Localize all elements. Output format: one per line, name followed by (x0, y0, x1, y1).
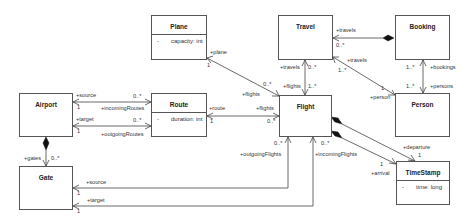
role-label: +departure (403, 145, 430, 151)
role-label: +outgoingRoutes (101, 132, 143, 138)
class-attribute: -duration: int (152, 113, 206, 122)
role-label: +source (76, 93, 96, 99)
class-flight[interactable]: Flight (279, 95, 332, 137)
role-label: +flights (256, 106, 274, 112)
role-label: +target (76, 117, 94, 123)
class-name: Flight (280, 96, 331, 114)
class-name: Travel (279, 16, 332, 34)
role-label: +flights (283, 84, 301, 90)
multiplicity-label: 1..* (406, 65, 414, 71)
multiplicity-label: 1 (77, 191, 80, 197)
multiplicity-label: 0..* (51, 156, 59, 162)
class-timestamp[interactable]: TimeStamp -time: long (396, 161, 450, 205)
class-name: Gate (20, 167, 72, 185)
role-label: +plane (210, 50, 227, 56)
role-label: +flights (242, 92, 260, 98)
multiplicity-label: 0..* (308, 65, 316, 71)
class-name: Route (152, 94, 206, 113)
multiplicity-label: 0..* (133, 94, 141, 100)
role-label: +travels (347, 58, 367, 64)
role-label: +arrival (371, 171, 390, 177)
multiplicity-label: 1..* (406, 84, 414, 90)
class-attribute: -capacity: int (152, 35, 206, 44)
role-label: +persons (430, 84, 453, 90)
class-travel[interactable]: Travel (278, 15, 333, 60)
class-person[interactable]: Person (395, 93, 450, 137)
class-booking[interactable]: Booking (395, 15, 450, 60)
multiplicity-label: 0..* (263, 82, 271, 88)
multiplicity-label: 0..* (321, 141, 329, 147)
role-label: +target (87, 198, 105, 204)
class-gate[interactable]: Gate (19, 166, 73, 210)
class-name: Plane (152, 16, 206, 35)
class-attribute: -time: long (397, 181, 449, 190)
role-label: +incomingFlights (315, 152, 357, 158)
role-label: +incomingRoutes (101, 106, 144, 112)
multiplicity-label: 1 (77, 105, 80, 111)
role-label: +source (86, 180, 106, 186)
class-plane[interactable]: Plane -capacity: int (151, 15, 207, 60)
multiplicity-label: 1..* (308, 84, 316, 90)
multiplicity-label: 1 (418, 153, 421, 159)
multiplicity-label: 1 (210, 119, 213, 125)
class-name: Person (396, 94, 449, 112)
class-route[interactable]: Route -duration: int (151, 93, 207, 137)
multiplicity-label: 0..* (336, 43, 344, 49)
role-label: +travels (336, 28, 356, 34)
role-label: +travels (280, 65, 300, 71)
multiplicity-label: 1 (77, 129, 80, 135)
class-name: Booking (396, 16, 449, 34)
multiplicity-label: 1 (207, 63, 210, 69)
class-airport[interactable]: Airport (19, 93, 73, 137)
role-label: +outgoingFlights (240, 152, 281, 158)
multiplicity-label: 1 (380, 162, 383, 168)
multiplicity-label: 0..* (267, 119, 275, 125)
role-label: +person (370, 95, 390, 101)
multiplicity-label: 0..* (133, 118, 141, 124)
multiplicity-label: 1..* (338, 68, 346, 74)
role-label: +gates (24, 156, 41, 162)
class-name: Airport (20, 94, 72, 112)
class-name: TimeStamp (397, 162, 449, 181)
role-label: +route (209, 106, 225, 112)
multiplicity-label: 1 (381, 86, 384, 92)
multiplicity-label: 0..* (274, 141, 282, 147)
role-label: +bookings (430, 65, 456, 71)
multiplicity-label: 1 (77, 209, 80, 215)
